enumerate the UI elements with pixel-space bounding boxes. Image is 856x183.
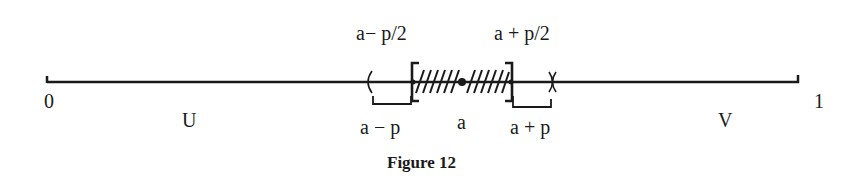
label-a-minus-half-p: a− p/2 bbox=[356, 23, 407, 43]
label-a-minus-p: a − p bbox=[360, 117, 400, 137]
label-a-plus-half-p: a + p/2 bbox=[494, 23, 550, 43]
label-endpoint-1: 1 bbox=[814, 91, 824, 111]
label-a: a bbox=[457, 112, 466, 132]
point-a-plus-half-p bbox=[509, 80, 514, 85]
point-a-minus-half-p bbox=[411, 80, 416, 85]
label-a-plus-p: a + p bbox=[510, 117, 550, 137]
label-region-v: V bbox=[718, 110, 732, 130]
point-a bbox=[458, 78, 466, 86]
label-endpoint-0: 0 bbox=[44, 91, 54, 111]
figure-caption: Figure 12 bbox=[387, 153, 456, 173]
brace-right bbox=[513, 96, 551, 107]
brace-left bbox=[373, 96, 411, 104]
number-line bbox=[47, 75, 799, 83]
label-region-u: U bbox=[182, 110, 196, 130]
